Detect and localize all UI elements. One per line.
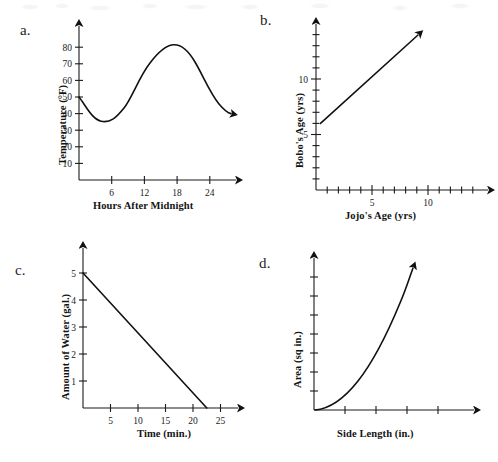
panel-c-ytick-5: 5 (71, 269, 76, 279)
panel-c-xtick-15: 15 (161, 416, 171, 426)
panel-c-y-axis-title: Amount of Water (gal.) (60, 294, 71, 400)
panel-a-xtick-12: 12 (140, 188, 150, 198)
panel-c-plot: 1 2 3 4 5 5 10 15 20 25 (0, 248, 250, 462)
panel-a-ytick-80: 80 (63, 43, 73, 53)
panel-b-line (321, 35, 419, 123)
panel-c-line (83, 273, 207, 408)
panel-b: b. (248, 0, 498, 231)
panel-c-xtick-25: 25 (216, 416, 226, 426)
panel-a-curve (79, 45, 231, 122)
panel-d-curve (315, 268, 413, 410)
panel-a: a. 10 (0, 0, 250, 231)
panel-a-xtick-24: 24 (205, 188, 215, 198)
panel-c-ytick-1: 1 (71, 377, 76, 387)
panel-b-xtick-10: 10 (423, 198, 433, 208)
panel-c-ytick-4: 4 (71, 296, 76, 306)
panel-d: d. (248, 248, 498, 462)
panel-a-ytick-70: 70 (63, 59, 73, 69)
panel-c-xtick-5: 5 (108, 416, 113, 426)
panel-a-x-tick-labels: 6 12 18 24 (109, 188, 214, 198)
panel-b-y-axis-title: Bobo's Age (yrs) (294, 93, 305, 168)
panel-c-y-tick-labels: 1 2 3 4 5 (71, 269, 76, 387)
panel-a-xtick-6: 6 (109, 188, 114, 198)
panel-d-y-axis-title: Area (sq in.) (292, 331, 303, 388)
panel-b-x-axis-title: Jojo's Age (yrs) (345, 210, 416, 221)
panel-c-xtick-10: 10 (133, 416, 143, 426)
panel-c-ytick-2: 2 (71, 350, 76, 360)
panel-a-x-axis-title: Hours After Midnight (93, 200, 193, 211)
panel-a-y-axis-title: Temperature (°F) (57, 85, 68, 165)
panel-d-x-axis-title: Side Length (in.) (337, 428, 414, 439)
panel-c-xtick-20: 20 (188, 416, 198, 426)
panel-c: c. 1 2 3 4 (0, 248, 250, 462)
panel-c-x-tick-labels: 5 10 15 20 25 (108, 416, 225, 426)
panel-a-xtick-18: 18 (172, 188, 182, 198)
panel-b-ytick-10: 10 (299, 75, 309, 85)
panel-c-ytick-3: 3 (71, 323, 76, 333)
panel-b-x-tick-labels: 5 10 (370, 198, 433, 208)
panel-b-xtick-5: 5 (370, 198, 375, 208)
panel-c-x-axis-title: Time (min.) (137, 428, 191, 439)
figure-page: a. 10 (0, 0, 498, 462)
panel-b-plot: 5 10 5 10 (248, 0, 498, 231)
panel-a-plot: 10 20 30 40 50 60 70 80 6 12 18 24 (0, 0, 250, 231)
